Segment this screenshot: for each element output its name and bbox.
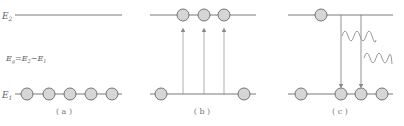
electrons-upper: [177, 9, 230, 21]
electron: [64, 88, 76, 100]
electron: [155, 88, 167, 100]
caption-c: ( c ): [332, 107, 348, 116]
diagram-svg: E2 Eg=E2−E1 E1 ( a ): [0, 0, 404, 126]
e2-label: E2: [1, 11, 13, 22]
electron: [43, 88, 55, 100]
energy-level-diagram: E2 Eg=E2−E1 E1 ( a ): [0, 0, 404, 126]
electron: [335, 88, 347, 100]
photon-wave-icon: [364, 53, 392, 64]
electron: [106, 88, 118, 100]
panel-a: E2 Eg=E2−E1 E1 ( a ): [1, 11, 122, 116]
electron: [315, 9, 327, 21]
electrons-upper: [315, 9, 327, 21]
electron: [21, 88, 33, 100]
electron: [355, 88, 367, 100]
electron: [177, 9, 189, 21]
photons: [342, 31, 392, 64]
e1-label: E1: [1, 90, 12, 101]
electron: [295, 88, 307, 100]
electron: [198, 9, 210, 21]
photon-wave-icon: [342, 31, 376, 42]
panel-b: ( b ): [150, 9, 256, 116]
panel-c: ( c ): [288, 9, 393, 116]
electron: [85, 88, 97, 100]
emission-arrows: [341, 15, 361, 86]
bandgap-equation: Eg=E2−E1: [5, 54, 47, 65]
electron: [218, 9, 230, 21]
caption-a: ( a ): [56, 107, 72, 116]
electron: [238, 88, 250, 100]
excitation-arrows: [183, 30, 224, 94]
caption-b: ( b ): [194, 107, 210, 116]
electron: [376, 88, 388, 100]
